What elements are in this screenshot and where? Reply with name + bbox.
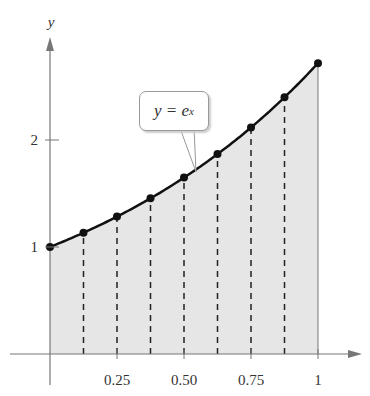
y-axis-label: y <box>46 14 55 30</box>
x-axis-arrow-icon <box>348 350 362 358</box>
data-point <box>314 59 322 67</box>
data-point <box>214 150 222 158</box>
y-tick-label: 2 <box>31 132 39 148</box>
y-axis-arrow-icon <box>46 37 54 51</box>
y-tick-label: 1 <box>31 239 39 255</box>
callout-exponent: x <box>189 105 194 117</box>
function-callout: y = ex <box>139 91 209 131</box>
callout-tail <box>180 128 196 172</box>
data-point <box>147 194 155 202</box>
x-tick-label: 0.50 <box>171 372 197 388</box>
data-point <box>180 174 188 182</box>
x-tick-label: 1 <box>314 372 322 388</box>
data-point <box>113 213 121 221</box>
x-tick-label: 0.75 <box>238 372 264 388</box>
callout-text: y = e <box>154 101 189 121</box>
chart-canvas: 0.250.500.75112y <box>0 0 370 396</box>
x-tick-label: 0.25 <box>104 372 130 388</box>
data-point <box>281 93 289 101</box>
data-point <box>80 229 88 237</box>
data-point <box>247 123 255 131</box>
